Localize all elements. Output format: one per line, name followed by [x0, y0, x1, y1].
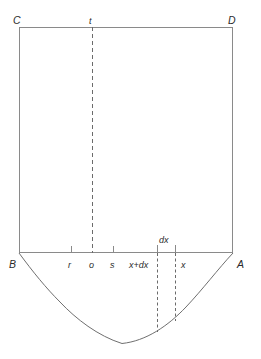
- label-r: r: [68, 260, 72, 270]
- label-s: s: [110, 260, 115, 270]
- geometry-figure: C D B A t r o s x+dx x dx: [0, 0, 261, 359]
- hanging-curve: [19, 253, 233, 344]
- label-o: o: [89, 260, 94, 270]
- label-dx: dx: [159, 235, 169, 245]
- label-D: D: [228, 14, 236, 26]
- diagram-canvas: C D B A t r o s x+dx x dx: [0, 0, 261, 359]
- dx-bracket: [158, 245, 176, 253]
- label-B: B: [9, 258, 16, 270]
- label-t: t: [89, 16, 92, 26]
- label-x-plus-dx: x+dx: [128, 260, 149, 270]
- rectangle-bacd: [19, 27, 233, 253]
- label-C: C: [13, 14, 21, 26]
- label-A: A: [236, 258, 244, 270]
- label-x: x: [180, 260, 186, 270]
